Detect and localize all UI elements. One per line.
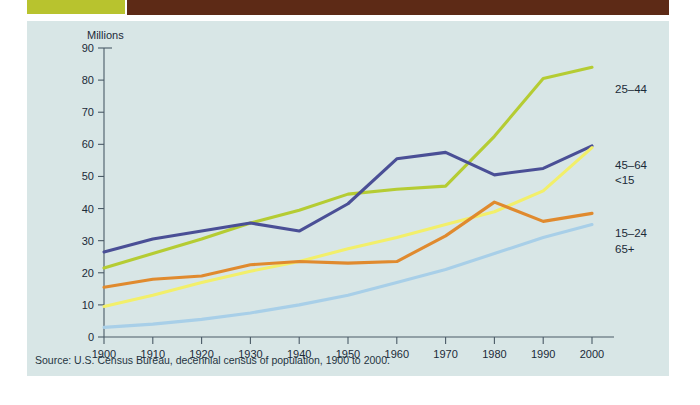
y-axis-tick-label: 0 bbox=[88, 331, 94, 343]
x-axis-tick-label: 1990 bbox=[531, 348, 555, 360]
banner-olive-block bbox=[27, 0, 125, 14]
series-label-<15: <15 bbox=[615, 174, 635, 186]
series-line-25-44 bbox=[104, 67, 592, 268]
y-axis-tick-label: 90 bbox=[82, 42, 94, 54]
y-axis-tick-label: 20 bbox=[82, 267, 94, 279]
series-label-65+: 65+ bbox=[615, 243, 635, 255]
top-banner bbox=[0, 0, 700, 21]
line-chart: 0102030405060708090190019101920193019401… bbox=[27, 21, 669, 376]
series-label-15–24: 15–24 bbox=[615, 227, 648, 239]
banner-brown-block bbox=[127, 0, 669, 15]
x-axis-tick-label: 1980 bbox=[482, 348, 506, 360]
series-label-45–64: 45–64 bbox=[615, 159, 648, 171]
y-axis-tick-label: 60 bbox=[82, 138, 94, 150]
series-line-45-64 bbox=[104, 146, 592, 252]
y-axis-tick-label: 50 bbox=[82, 170, 94, 182]
series-label-25–44: 25–44 bbox=[615, 83, 648, 95]
y-axis-tick-label: 80 bbox=[82, 74, 94, 86]
y-axis-tick-label: 30 bbox=[82, 235, 94, 247]
x-axis-tick-label: 1970 bbox=[433, 348, 457, 360]
chart-page: Millions 0102030405060708090190019101920… bbox=[0, 0, 700, 405]
source-note: Source: U.S. Census Bureau, decennial ce… bbox=[35, 354, 390, 366]
y-axis-tick-label: 40 bbox=[82, 203, 94, 215]
footer-strip bbox=[0, 376, 700, 405]
y-axis-tick-label: 70 bbox=[82, 106, 94, 118]
y-axis-tick-label: 10 bbox=[82, 299, 94, 311]
series-line-65+ bbox=[104, 225, 592, 328]
chart-panel: Millions 0102030405060708090190019101920… bbox=[27, 21, 669, 376]
x-axis-tick-label: 2000 bbox=[580, 348, 604, 360]
